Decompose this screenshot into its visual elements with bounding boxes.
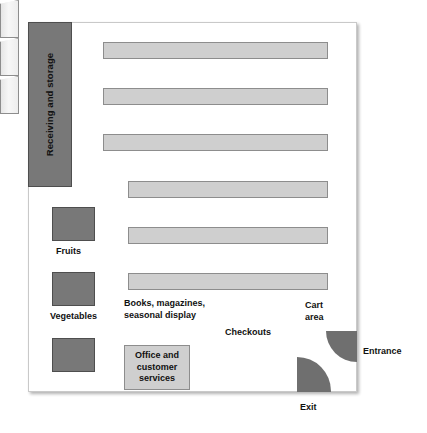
label-fruits: Fruits xyxy=(56,245,81,257)
checkout-lane-3 xyxy=(0,76,19,114)
zone-office-and-customer-services: Office and customer services xyxy=(124,345,190,390)
checkout-lane-1 xyxy=(0,0,19,38)
zone-office-label: Office and customer services xyxy=(127,350,187,385)
shelf-run-3 xyxy=(103,134,328,151)
zone-fruits xyxy=(52,207,95,241)
label-cart-area: Cart area xyxy=(305,299,339,323)
label-vegetables: Vegetables xyxy=(50,310,97,322)
zone-produce-unlabeled xyxy=(52,338,95,372)
label-books: Books, magazines, seasonal display xyxy=(124,297,234,321)
checkout-lane-2 xyxy=(0,38,19,76)
shelf-run-6 xyxy=(128,273,328,290)
shelf-run-2 xyxy=(103,88,328,105)
zone-receiving-label: Receiving and storage xyxy=(45,53,56,156)
zone-receiving-and-storage: Receiving and storage xyxy=(28,22,72,187)
zone-vegetables xyxy=(52,272,95,306)
label-entrance: Entrance xyxy=(363,345,402,357)
shelf-run-5 xyxy=(128,227,328,244)
label-exit: Exit xyxy=(300,401,317,413)
label-checkouts: Checkouts xyxy=(225,326,271,338)
shelf-run-1 xyxy=(103,42,328,59)
store-floor-plan: Receiving and storage Office and custome… xyxy=(0,0,427,433)
shelf-run-4 xyxy=(128,181,328,198)
